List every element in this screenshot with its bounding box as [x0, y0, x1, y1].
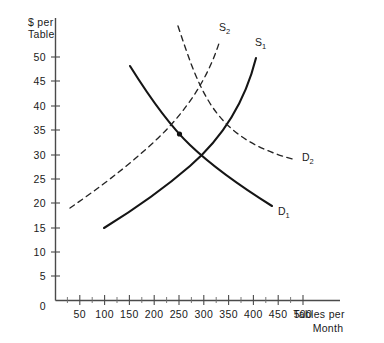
curve-S1	[104, 58, 256, 228]
x-axis-title-line2: Month	[313, 322, 344, 334]
x-axis-title-line1: Tables per	[293, 308, 345, 320]
curve-label-S2: S2	[219, 21, 230, 36]
y-tick-label-5: 5	[40, 270, 46, 282]
origin-label: 0	[40, 300, 46, 312]
x-tick-label-150: 150	[120, 308, 139, 320]
x-axis-tick-labels: 50 100 150 200 250 300 350 400 450 500	[74, 308, 313, 320]
x-tick-label-250: 250	[170, 308, 189, 320]
figure-caption	[0, 334, 384, 343]
y-axis-title-line1: $ per	[28, 16, 54, 28]
y-tick-label-50: 50	[34, 51, 46, 63]
supply-demand-chart: 50 45 40 35 30 25 20 15 10 5 0	[0, 0, 384, 343]
x-axis-title: Tables per Month	[293, 308, 345, 334]
x-tick-label-200: 200	[145, 308, 164, 320]
y-tick-label-10: 10	[34, 246, 46, 258]
chart-svg: 50 45 40 35 30 25 20 15 10 5 0	[0, 0, 384, 343]
y-tick-label-30: 30	[34, 149, 46, 161]
curve-label-D2: D2	[302, 151, 314, 166]
y-tick-label-25: 25	[34, 173, 46, 185]
y-axis-title: $ per Table	[28, 16, 55, 40]
x-tick-label-100: 100	[95, 308, 114, 320]
x-tick-label-350: 350	[219, 308, 238, 320]
y-tick-label-45: 45	[34, 75, 46, 87]
y-axis-tick-labels: 50 45 40 35 30 25 20 15 10 5 0	[34, 51, 46, 312]
equilibrium-dot-2	[177, 131, 182, 136]
curve-S2	[70, 40, 220, 208]
y-tick-label-35: 35	[34, 124, 46, 136]
y-tick-label-15: 15	[34, 222, 46, 234]
y-axis-title-line2: Table	[28, 28, 55, 40]
y-tick-label-20: 20	[34, 197, 46, 209]
x-tick-label-50: 50	[74, 308, 86, 320]
x-tick-label-300: 300	[194, 308, 213, 320]
x-tick-label-450: 450	[269, 308, 288, 320]
curve-label-D1: D1	[278, 205, 290, 220]
curve-label-S1: S1	[255, 36, 266, 51]
x-tick-label-400: 400	[244, 308, 263, 320]
y-tick-label-40: 40	[34, 100, 46, 112]
